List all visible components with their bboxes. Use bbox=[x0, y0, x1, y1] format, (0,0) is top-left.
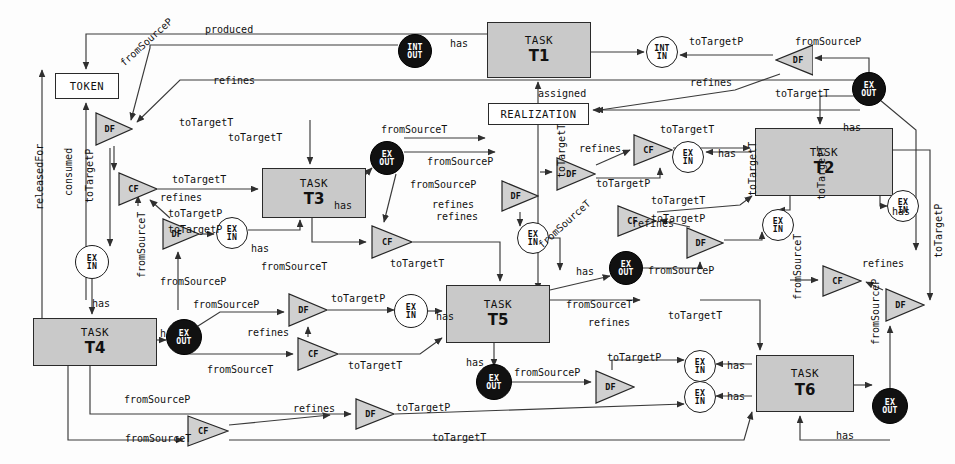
lbl-totargett-4: toTargetT bbox=[660, 124, 714, 135]
lbl-totargett-6: toTargetT bbox=[651, 195, 705, 206]
gate-type-label: CF bbox=[643, 145, 654, 155]
task-name-label: T4 bbox=[85, 340, 106, 357]
lbl-fromsourcep-3: fromSourceP bbox=[427, 156, 493, 167]
gate-type-label: DF bbox=[566, 169, 577, 179]
port-ex-out-1[interactable]: EXOUT bbox=[852, 72, 886, 106]
lbl-has-1: has bbox=[450, 38, 468, 49]
lbl-totargett-7: toTargetT bbox=[390, 258, 444, 269]
lbl-refines-10: refines bbox=[588, 317, 630, 328]
port-ex-in-4[interactable]: EXIN bbox=[762, 209, 794, 241]
lbl-totargetp-10: toTargetP bbox=[396, 402, 450, 413]
task-t5[interactable]: TASKT5 bbox=[446, 285, 550, 343]
lbl-produced: produced bbox=[205, 24, 253, 35]
port-ex-in-6[interactable]: EXIN bbox=[75, 245, 109, 279]
lbl-has-13: has bbox=[727, 391, 745, 402]
gate-cf-5[interactable]: CF bbox=[297, 337, 339, 371]
task-kind-label: TASK bbox=[484, 299, 513, 312]
lbl-totargett-10: toTargetT bbox=[816, 146, 827, 200]
lbl-refines-5: refines bbox=[432, 199, 474, 210]
port-line-2: IN bbox=[657, 52, 667, 60]
gate-cf-7[interactable]: CF bbox=[187, 415, 229, 447]
gate-cf-1[interactable]: CF bbox=[118, 172, 158, 206]
port-int-in-1[interactable]: INTIN bbox=[646, 36, 678, 68]
port-ex-in-1[interactable]: EXIN bbox=[672, 141, 704, 173]
lbl-totargetp-2: toTargetP bbox=[596, 178, 650, 189]
gate-type-label: CF bbox=[128, 184, 139, 194]
lbl-fromsourcet-7: fromSourceT bbox=[566, 299, 632, 310]
lbl-totargetp-6: toTargetP bbox=[84, 149, 95, 203]
task-name-label: T6 bbox=[795, 382, 816, 399]
lbl-fromsourcep-7: fromSourceP bbox=[870, 279, 881, 345]
gate-type-label: CF bbox=[308, 349, 319, 359]
port-ex-in-7[interactable]: EXIN bbox=[394, 294, 428, 328]
lbl-releasedfor: releasedFor bbox=[34, 144, 45, 210]
lbl-has-7: has bbox=[892, 206, 910, 217]
port-line-2: IN bbox=[87, 262, 97, 270]
lbl-refines-1: refines bbox=[213, 75, 255, 86]
port-line-2: OUT bbox=[407, 51, 422, 59]
lbl-fromsourcet-1: fromSourceT bbox=[381, 124, 447, 135]
port-ex-in-8[interactable]: EXIN bbox=[684, 350, 716, 382]
port-ex-out-6[interactable]: EXOUT bbox=[872, 388, 908, 424]
gate-df-6[interactable]: DF bbox=[686, 227, 724, 259]
task-t4[interactable]: TASKT4 bbox=[33, 318, 157, 366]
port-ex-in-9[interactable]: EXIN bbox=[684, 381, 716, 413]
gate-type-label: DF bbox=[104, 124, 115, 134]
port-ex-out-3[interactable]: EXOUT bbox=[609, 251, 643, 285]
port-line-2: OUT bbox=[618, 268, 633, 276]
lbl-fromsourcep-9: fromSourceP bbox=[514, 367, 580, 378]
task-name-label: T5 bbox=[488, 312, 509, 329]
gate-df-9[interactable]: DF bbox=[595, 370, 635, 404]
gate-type-label: CF bbox=[198, 426, 209, 436]
gate-df-10[interactable]: DF bbox=[355, 398, 395, 430]
port-ex-out-2[interactable]: EXOUT bbox=[370, 141, 404, 175]
lbl-refines-2: refines bbox=[690, 77, 732, 88]
task-t6[interactable]: TASKT6 bbox=[756, 355, 854, 412]
box-token[interactable]: TOKEN bbox=[55, 73, 119, 99]
lbl-totargett-13: toTargetT bbox=[432, 432, 486, 443]
lbl-fromsourcep-10: fromSourceP bbox=[124, 394, 190, 405]
lbl-totargetp-8: toTargetP bbox=[331, 293, 385, 304]
task-kind-label: TASK bbox=[81, 327, 110, 340]
gate-df-2[interactable]: DF bbox=[775, 44, 813, 76]
lbl-fromsourcet-8: fromSourceT bbox=[125, 433, 191, 444]
lbl-totargett-2: toTargetT bbox=[179, 117, 233, 128]
gate-df-5[interactable]: DF bbox=[501, 180, 539, 212]
task-kind-label: TASK bbox=[791, 368, 820, 381]
task-t1[interactable]: TASKT1 bbox=[487, 22, 591, 78]
lbl-totargett-3: toTargetT bbox=[228, 132, 282, 143]
lbl-fromsourcep-4: fromSourceP bbox=[410, 179, 476, 190]
lbl-refines-4: refines bbox=[160, 192, 202, 203]
lbl-totargett-9: toTargetT bbox=[747, 142, 758, 196]
gate-df-7[interactable]: DF bbox=[288, 293, 328, 327]
lbl-assigned: assigned bbox=[538, 88, 586, 99]
gate-df-1[interactable]: DF bbox=[95, 112, 133, 146]
gate-cf-2[interactable]: CF bbox=[633, 134, 673, 166]
port-line-2: OUT bbox=[861, 89, 876, 97]
lbl-has-12: has bbox=[727, 360, 745, 371]
task-kind-label: TASK bbox=[300, 178, 329, 191]
lbl-fromsourcet-2: fromSourceT bbox=[136, 212, 147, 278]
lbl-refines-8: refines bbox=[862, 258, 904, 269]
lbl-has-9: has bbox=[160, 328, 178, 339]
diagram-canvas: TASKT1TASKT2TASKT3TASKT4TASKT5TASKT6 TOK… bbox=[0, 0, 955, 464]
gate-cf-6[interactable]: CF bbox=[822, 265, 862, 297]
lbl-fromsourcep-5: fromSourceP bbox=[160, 276, 226, 287]
port-ex-out-5[interactable]: EXOUT bbox=[476, 364, 512, 400]
task-name-label: T1 bbox=[529, 48, 550, 65]
gate-df-8[interactable]: DF bbox=[885, 288, 925, 322]
lbl-has-3: has bbox=[718, 148, 736, 159]
lbl-refines-9: refines bbox=[247, 327, 289, 338]
lbl-has-14: has bbox=[836, 430, 854, 441]
gate-type-label: DF bbox=[298, 305, 309, 315]
lbl-totargett-12: toTargetT bbox=[668, 310, 722, 321]
port-line-2: OUT bbox=[882, 406, 897, 414]
gate-type-label: DF bbox=[605, 382, 616, 392]
port-int-out-1[interactable]: INTOUT bbox=[398, 34, 432, 68]
port-line-2: IN bbox=[683, 157, 693, 165]
lbl-has-2: has bbox=[843, 122, 861, 133]
gate-cf-3[interactable]: CF bbox=[371, 225, 413, 259]
port-line-2: IN bbox=[695, 397, 705, 405]
lbl-fromsourcet-3: fromSourceT bbox=[261, 261, 327, 272]
box-realization[interactable]: REALIZATION bbox=[488, 103, 589, 125]
